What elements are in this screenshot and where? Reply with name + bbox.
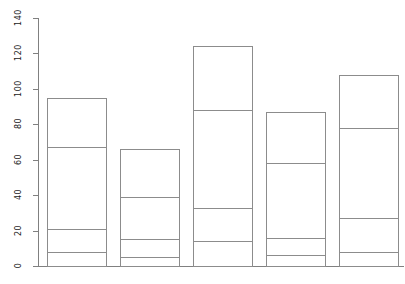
bar-segment-1-2 (47, 229, 107, 253)
bar-segment-2-3 (120, 197, 180, 240)
y-axis-tick-label: 0 (14, 252, 23, 280)
stacked-bar-chart: 020406080100120140 (0, 0, 405, 284)
bar-segment-1-4 (47, 98, 107, 148)
bar-segment-3-2 (193, 208, 253, 242)
bar-segment-4-3 (266, 163, 326, 239)
bar-segment-3-3 (193, 110, 253, 209)
bar-segment-5-4 (339, 75, 399, 129)
bar-segment-4-1 (266, 255, 326, 267)
bar-segment-2-2 (120, 239, 180, 258)
y-axis-tick-label: 80 (14, 110, 23, 138)
y-axis-tick-label: 60 (14, 146, 23, 174)
y-axis-tick (33, 195, 38, 196)
y-axis-tick (33, 18, 38, 19)
y-axis-tick-label: 140 (14, 4, 23, 32)
y-axis-tick-label: 20 (14, 217, 23, 245)
bar-segment-2-1 (120, 257, 180, 267)
y-axis-tick (33, 124, 38, 125)
bar-segment-3-4 (193, 46, 253, 111)
bar-segment-1-3 (47, 147, 107, 230)
bar-segment-4-4 (266, 112, 326, 164)
y-axis-tick-label: 120 (14, 39, 23, 67)
y-axis-tick (33, 231, 38, 232)
bar-segment-5-2 (339, 218, 399, 253)
bar-segment-3-1 (193, 241, 253, 267)
bar-segment-4-2 (266, 238, 326, 256)
y-axis-tick (33, 89, 38, 90)
y-axis-line (38, 18, 39, 267)
bar-segment-5-3 (339, 128, 399, 219)
bar-segment-1-1 (47, 252, 107, 267)
y-axis-tick-label: 40 (14, 181, 23, 209)
y-axis-tick (33, 53, 38, 54)
y-axis-tick (33, 160, 38, 161)
y-axis-tick-label: 100 (14, 75, 23, 103)
bar-segment-2-4 (120, 149, 180, 198)
bar-segment-5-1 (339, 252, 399, 267)
